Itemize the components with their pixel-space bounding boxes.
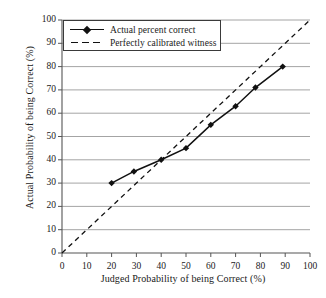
legend-solid-line-marker-icon [70,24,104,35]
legend-label-actual-percent-correct: Actual percent correct [110,25,196,35]
chart-figure: Actual Probability of being Correct (%) … [0,0,326,298]
series-line-actual-percent-correct [112,67,283,184]
chart-legend: Actual percent correct Perfectly calibra… [63,20,221,51]
legend-entry-actual-percent-correct: Actual percent correct [70,23,196,36]
data-point-marker [131,168,137,174]
data-point-marker [108,180,114,186]
legend-dashed-line-icon [70,37,104,48]
legend-entry-perfectly-calibrated-witness: Perfectly calibrated witness [70,36,216,49]
legend-label-perfectly-calibrated-witness: Perfectly calibrated witness [110,38,216,48]
